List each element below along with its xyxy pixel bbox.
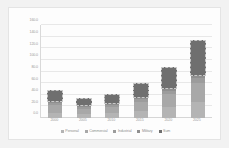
legend-item[interactable]: Personal	[61, 130, 79, 134]
bar-segment-military[interactable]	[191, 76, 205, 78]
bar-segment-commercial[interactable]	[162, 94, 176, 107]
bar-segment-industrial[interactable]	[191, 78, 205, 82]
bar-group[interactable]	[127, 25, 156, 118]
x-axis-tick-label: 2020	[164, 119, 172, 123]
chart-card: 0.020.040.060.080.0100.0120.0140.0160.0 …	[8, 7, 221, 140]
x-axis-labels: 200020052010201520202025	[40, 119, 212, 128]
stacked-column[interactable]	[105, 104, 119, 118]
plot-area: 0.020.040.060.080.0100.0120.0140.0160.0	[40, 25, 212, 118]
stacked-column[interactable]	[162, 89, 176, 118]
legend-swatch-icon	[61, 130, 64, 133]
legend-item[interactable]: Sum	[159, 130, 171, 134]
bar-segment-commercial[interactable]	[105, 107, 119, 113]
bar-segment-sum[interactable]	[76, 98, 92, 107]
bar-segment-industrial[interactable]	[105, 105, 119, 107]
chart-legend: PersonalCommercialIndustrialMilitarySum	[9, 130, 222, 134]
stacked-column[interactable]	[77, 106, 91, 118]
legend-item[interactable]: Industrial	[113, 130, 131, 134]
x-axis-tick-label: 2015	[136, 119, 144, 123]
y-axis-tick-label: 100.0	[30, 54, 39, 58]
legend-label: Military	[142, 130, 153, 134]
y-axis-tick-label: 40.0	[31, 89, 38, 93]
y-axis-tick-label: 20.0	[31, 101, 38, 105]
bar-segment-military[interactable]	[134, 98, 148, 99]
y-axis-tick-label: 0.0	[33, 113, 38, 117]
y-axis-tick-label: 160.0	[30, 20, 39, 24]
bar-segment-sum[interactable]	[47, 90, 63, 102]
bar-group[interactable]	[155, 25, 184, 118]
bar-segment-industrial[interactable]	[77, 107, 91, 109]
bar-segment-personal[interactable]	[162, 107, 176, 118]
bar-group[interactable]	[98, 25, 127, 118]
bar-segment-commercial[interactable]	[77, 109, 91, 114]
bar-segment-personal[interactable]	[134, 111, 148, 118]
y-axis-tick-label: 140.0	[30, 31, 39, 35]
stacked-column[interactable]	[191, 76, 205, 118]
legend-label: Industrial	[118, 130, 132, 134]
legend-swatch-icon	[113, 130, 116, 133]
legend-item[interactable]: Commercial	[85, 130, 108, 134]
x-axis-tick-label: 2025	[193, 119, 201, 123]
bar-segment-personal[interactable]	[191, 102, 205, 118]
legend-label: Personal	[65, 130, 78, 134]
chart-root: 0.020.040.060.080.0100.0120.0140.0160.0 …	[0, 0, 229, 148]
bar-segment-commercial[interactable]	[134, 102, 148, 111]
y-axis-tick-label: 80.0	[31, 66, 38, 70]
bar-segment-military[interactable]	[162, 89, 176, 91]
bar-segment-sum[interactable]	[190, 40, 206, 77]
bar-segment-commercial[interactable]	[48, 105, 62, 113]
legend-swatch-icon	[85, 130, 88, 133]
legend-label: Sum	[163, 130, 170, 134]
bar-group[interactable]	[184, 25, 213, 118]
x-axis-tick-label: 2005	[79, 119, 87, 123]
bar-segment-commercial[interactable]	[191, 83, 205, 102]
legend-swatch-icon	[159, 130, 162, 133]
bars-layer	[41, 25, 212, 118]
bar-segment-military[interactable]	[105, 104, 119, 105]
legend-swatch-icon	[137, 130, 140, 133]
bar-segment-sum[interactable]	[161, 67, 177, 89]
bar-segment-industrial[interactable]	[162, 91, 176, 94]
x-axis-tick-label: 2000	[50, 119, 58, 123]
y-axis-tick-label: 60.0	[31, 78, 38, 82]
stacked-column[interactable]	[48, 102, 62, 118]
bar-group[interactable]	[41, 25, 70, 118]
bar-segment-military[interactable]	[48, 102, 62, 103]
bar-segment-industrial[interactable]	[134, 99, 148, 101]
bar-segment-industrial[interactable]	[48, 103, 62, 105]
y-axis-tick-label: 120.0	[30, 43, 39, 47]
legend-label: Commercial	[89, 130, 107, 134]
bar-segment-sum[interactable]	[133, 83, 149, 98]
bar-segment-sum[interactable]	[104, 94, 120, 104]
stacked-column[interactable]	[134, 98, 148, 118]
x-axis-tick-label: 2010	[107, 119, 115, 123]
bar-group[interactable]	[70, 25, 99, 118]
legend-item[interactable]: Military	[137, 130, 152, 134]
